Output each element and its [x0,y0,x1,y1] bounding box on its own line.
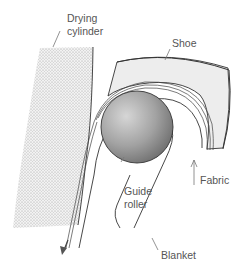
label-guide-roller-line1: Guide [124,185,152,197]
label-drying-cylinder-line1: Drying [67,12,97,24]
guide-roller [101,91,173,163]
label-fabric: Fabric [200,174,229,186]
label-guide-roller-line2: roller [124,198,147,210]
shoe-press-diagram [0,0,245,275]
label-drying-cylinder-line2: cylinder [67,25,103,37]
label-blanket: Blanket [161,249,196,261]
drying-cylinder [13,47,93,228]
fabric-direction-arrow-icon [60,240,68,255]
label-shoe: Shoe [172,37,197,49]
